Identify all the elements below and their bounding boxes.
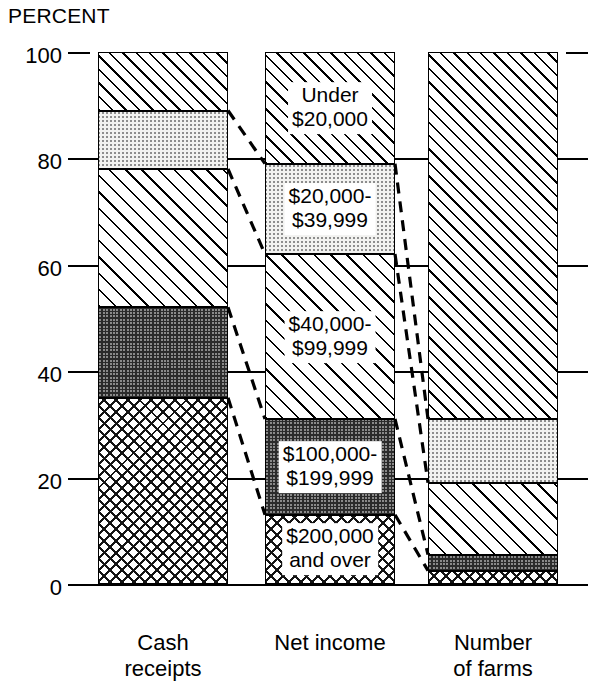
x-label-cash-receipts: Cash receipts	[98, 630, 228, 683]
y-tick-label-40: 40	[0, 364, 62, 386]
segment-number-of-farms-100000-199999	[428, 555, 558, 571]
gridline-tick-right-20	[558, 478, 588, 480]
stacked-bar-chart: PERCENT 100 80 60 40 20 0	[0, 0, 611, 698]
segment-label-20000-39999: $20,000- $39,999	[285, 183, 376, 235]
segment-number-of-farms-under-20000	[428, 52, 558, 419]
gridline-tick-100	[68, 52, 90, 54]
segment-cash-receipts-20000-39999	[98, 111, 228, 170]
y-tick-label-80: 80	[0, 151, 62, 173]
segment-cash-receipts-200000-over	[98, 398, 228, 584]
segment-cash-receipts-100000-199999	[98, 307, 228, 397]
segment-cash-receipts-40000-99999	[98, 169, 228, 307]
y-tick-label-0: 0	[0, 577, 62, 599]
x-label-number-of-farms: Number of farms	[428, 630, 558, 683]
y-axis-title: PERCENT	[8, 4, 110, 28]
segment-label-40000-99999: $40,000- $99,999	[285, 311, 376, 363]
y-tick-label-20: 20	[0, 471, 62, 493]
segment-label-under-20000: Under $20,000	[288, 82, 372, 134]
segment-number-of-farms-40000-99999	[428, 483, 558, 555]
segment-number-of-farms-200000-over	[428, 571, 558, 584]
segment-label-100000-199999: $100,000- $199,999	[279, 441, 382, 493]
bar-number-of-farms	[428, 52, 558, 584]
bar-cash-receipts	[98, 52, 228, 584]
gridline-tick-right-40	[558, 371, 588, 373]
y-tick-label-100: 100	[0, 45, 62, 67]
gridline-tick-right-60	[558, 265, 588, 267]
segment-cash-receipts-under-20000	[98, 52, 228, 111]
gridline-tick-right-100	[566, 52, 588, 54]
segment-number-of-farms-20000-39999	[428, 419, 558, 483]
segment-label-200000-over: $200,000 and over	[282, 523, 378, 575]
y-tick-label-60: 60	[0, 258, 62, 280]
x-axis-baseline	[68, 584, 588, 586]
x-label-net-income: Net income	[255, 630, 405, 656]
gridline-tick-right-80	[558, 158, 588, 160]
